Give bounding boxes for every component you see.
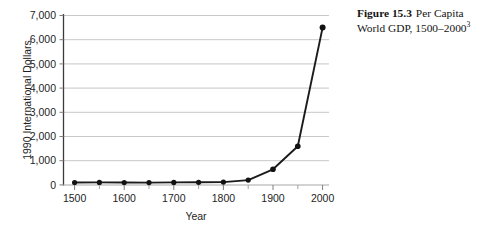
y-tick-label-0: 0 (50, 179, 56, 191)
figure-container: 7,000 6,000 5,000 4,000 3,000 2,000 1,00… (0, 0, 345, 231)
data-point-2000 (320, 25, 326, 31)
data-point-1950 (295, 143, 301, 149)
figure-caption: Figure 15.3Per Capita World GDP, 1500–20… (357, 6, 483, 35)
data-point-1750 (196, 180, 201, 185)
x-tick-label-1500: 1500 (63, 192, 87, 204)
x-tick-label-1800: 1800 (212, 192, 236, 204)
y-tick-label-4000: 4,000 (30, 82, 56, 94)
x-axis-ticks (75, 185, 323, 190)
gridlines (63, 16, 329, 161)
y-tick-label-2000: 2,000 (30, 130, 56, 142)
y-axis-tick-labels: 7,000 6,000 5,000 4,000 3,000 2,000 1,00… (30, 9, 56, 190)
x-tick-label-1900: 1900 (261, 192, 285, 204)
x-tick-label-2000: 2000 (311, 192, 335, 204)
gdp-series-points (72, 25, 326, 186)
figure-caption-label: Figure 15.3 (357, 7, 412, 19)
data-point-1900 (270, 167, 276, 173)
figure-caption-line3: 1500–2000 (415, 22, 466, 34)
x-tick-label-1600: 1600 (113, 192, 137, 204)
figure-caption-line2: World GDP, (357, 22, 412, 34)
y-tick-label-1000: 1,000 (30, 154, 56, 166)
y-tick-label-7000: 7,000 (30, 9, 56, 21)
y-tick-label-6000: 6,000 (30, 33, 56, 45)
data-point-1550 (97, 180, 102, 185)
data-point-1800 (221, 180, 226, 185)
x-axis-tick-labels: 1500 1600 1700 1800 1900 2000 (63, 192, 335, 204)
figure-caption-footnote-marker: 3 (467, 20, 471, 29)
per-capita-world-gdp-line-chart: 7,000 6,000 5,000 4,000 3,000 2,000 1,00… (0, 0, 345, 231)
x-axis-title: Year (185, 210, 207, 222)
gdp-series-line (75, 28, 323, 183)
y-tick-label-3000: 3,000 (30, 106, 56, 118)
x-tick-label-1700: 1700 (162, 192, 186, 204)
data-point-1700 (171, 180, 176, 185)
data-point-1850 (246, 178, 251, 183)
y-axis-title: 1990 International Dollars (21, 40, 33, 160)
data-point-1650 (146, 180, 151, 185)
data-point-1600 (122, 180, 127, 185)
data-point-1500 (72, 180, 77, 185)
y-tick-label-5000: 5,000 (30, 58, 56, 70)
figure-caption-line1: Per Capita (416, 7, 464, 19)
